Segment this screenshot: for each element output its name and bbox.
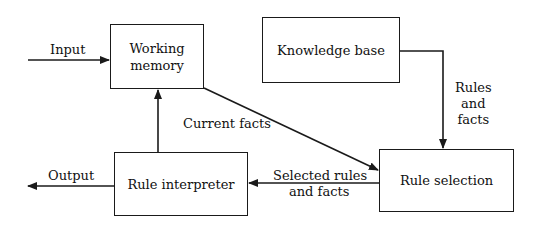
rules-facts-arrow <box>400 51 443 148</box>
working-memory-box: Working memory <box>110 24 204 89</box>
working-memory-label-2: memory <box>129 57 184 74</box>
rule-selection-box: Rule selection <box>379 149 514 212</box>
rule-interpreter-label: Rule interpreter <box>127 176 234 193</box>
working-memory-label-1: Working <box>129 40 184 57</box>
rules-and-facts-label: Rules and facts <box>455 80 492 128</box>
current-facts-label: Current facts <box>183 116 271 131</box>
rules-and-facts-line-3: facts <box>455 112 492 128</box>
input-label: Input <box>50 42 85 57</box>
selected-rules-label-2: and facts <box>289 184 349 199</box>
knowledge-base-label: Knowledge base <box>277 42 385 59</box>
rule-interpreter-box: Rule interpreter <box>114 152 248 216</box>
rules-and-facts-line-1: Rules <box>455 80 492 96</box>
rules-and-facts-line-2: and <box>455 96 492 112</box>
selected-rules-label-1: Selected rules <box>273 168 367 183</box>
knowledge-base-box: Knowledge base <box>262 17 400 83</box>
rule-selection-label: Rule selection <box>400 172 493 189</box>
output-label: Output <box>48 168 94 183</box>
